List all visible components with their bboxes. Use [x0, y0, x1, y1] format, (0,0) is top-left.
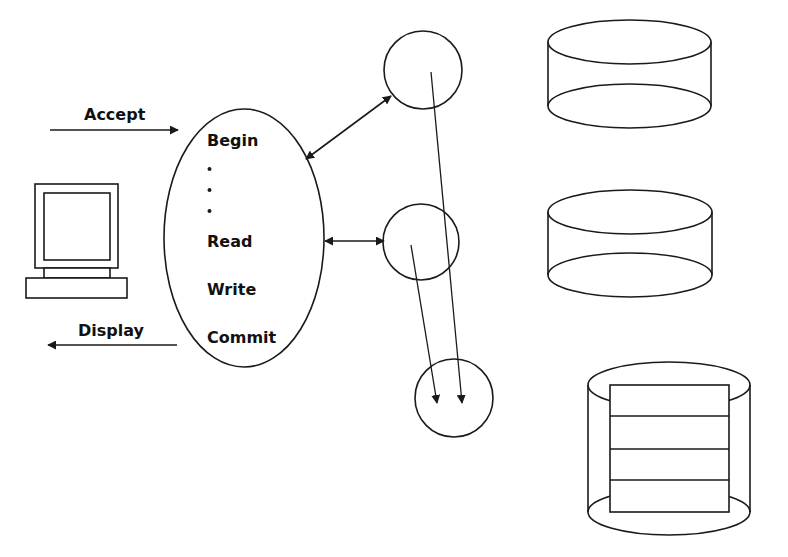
computer-terminal-icon — [26, 184, 127, 298]
process-circle-3 — [415, 359, 493, 437]
display-label: Display — [78, 321, 145, 340]
ellipsis-dot — [208, 209, 212, 213]
monitor-neck — [44, 268, 110, 278]
disk-cylinder-2 — [548, 190, 712, 297]
ellipsis-dot — [208, 188, 212, 192]
bidirectional-arrow-process-1 — [306, 96, 391, 159]
ellipsis-dot — [208, 167, 212, 171]
disk-cylinder-records — [588, 362, 750, 535]
accept-connector: Accept — [50, 105, 178, 130]
arrow-process-2-to-3 — [411, 245, 437, 403]
cylinder-bottom — [548, 253, 712, 297]
cylinder-top — [548, 190, 712, 234]
keyboard-base — [26, 278, 127, 298]
step-write: Write — [207, 280, 256, 299]
process-circle-1 — [384, 31, 462, 109]
cylinder-bottom — [548, 84, 711, 128]
transaction-program: Begin Read Write Commit — [164, 109, 324, 367]
display-connector: Display — [48, 321, 177, 345]
step-begin: Begin — [207, 131, 258, 150]
arrow-process-1-to-3 — [431, 72, 462, 403]
step-commit: Commit — [207, 328, 277, 347]
transaction-diagram: Accept Display Begin Read Write Commit — [0, 0, 788, 557]
cylinder-top — [548, 20, 711, 64]
disk-cylinder-1 — [548, 20, 711, 128]
step-read: Read — [207, 232, 252, 251]
monitor-screen — [44, 193, 110, 260]
process-circle-2 — [383, 204, 459, 280]
accept-label: Accept — [84, 105, 146, 124]
